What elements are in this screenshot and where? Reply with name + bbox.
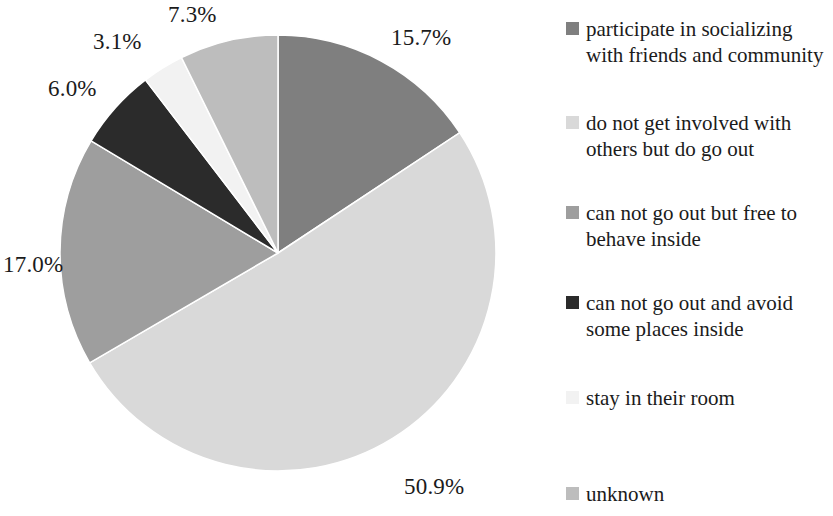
pie-slice-group — [60, 35, 496, 471]
pie-value-label: 50.9% — [404, 474, 464, 500]
legend-item-label: do not get involved with others but do g… — [586, 110, 831, 162]
legend-item[interactable]: stay in their room — [560, 385, 833, 411]
legend-item[interactable]: do not get involved with others but do g… — [560, 110, 833, 162]
pie-chart-plot-area: 15.7%50.9%17.0%6.0%3.1%7.3% — [0, 0, 560, 516]
legend-item[interactable]: can not go out and avoid some places ins… — [560, 290, 833, 342]
legend-item-label: can not go out and avoid some places ins… — [586, 290, 831, 342]
legend-color-swatch-icon — [566, 206, 579, 219]
legend-color-swatch-icon — [566, 391, 579, 404]
legend-color-swatch-icon — [566, 22, 579, 35]
legend-item-label: can not go out but free to behave inside — [586, 200, 831, 252]
legend-item-label: participate in socializing with friends … — [586, 16, 831, 68]
legend-color-swatch-icon — [566, 296, 579, 309]
legend-item[interactable]: can not go out but free to behave inside — [560, 200, 833, 252]
legend-item[interactable]: unknown — [560, 481, 833, 507]
pie-value-label: 6.0% — [48, 76, 97, 102]
pie-chart-figure: 15.7%50.9%17.0%6.0%3.1%7.3% participate … — [0, 0, 833, 516]
legend-item-label: stay in their room — [586, 385, 735, 411]
pie-value-label: 15.7% — [391, 25, 451, 51]
legend-color-swatch-icon — [566, 487, 579, 500]
legend-item-label: unknown — [586, 481, 664, 507]
pie-value-label: 17.0% — [3, 252, 63, 278]
legend-item[interactable]: participate in socializing with friends … — [560, 16, 833, 68]
pie-value-label: 7.3% — [168, 2, 217, 28]
chart-legend: participate in socializing with friends … — [560, 0, 833, 516]
pie-value-label: 3.1% — [93, 29, 142, 55]
legend-color-swatch-icon — [566, 116, 579, 129]
